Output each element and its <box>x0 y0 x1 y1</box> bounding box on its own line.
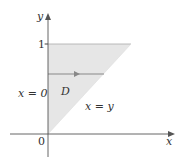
y-axis-label: y <box>36 10 44 23</box>
region-diagram: y 1 x = 0 D x = y 0 x <box>0 0 184 167</box>
x-axis-label: x <box>166 135 173 148</box>
origin-label: 0 <box>38 135 45 148</box>
diagram-canvas: y 1 x = 0 D x = y 0 x <box>0 0 184 167</box>
left-boundary-label: x = 0 <box>18 87 47 100</box>
diagonal-boundary-label: x = y <box>85 100 114 113</box>
y-tick-label-1: 1 <box>38 38 45 51</box>
y-axis-arrow-icon <box>45 13 51 20</box>
region-label: D <box>60 85 70 98</box>
